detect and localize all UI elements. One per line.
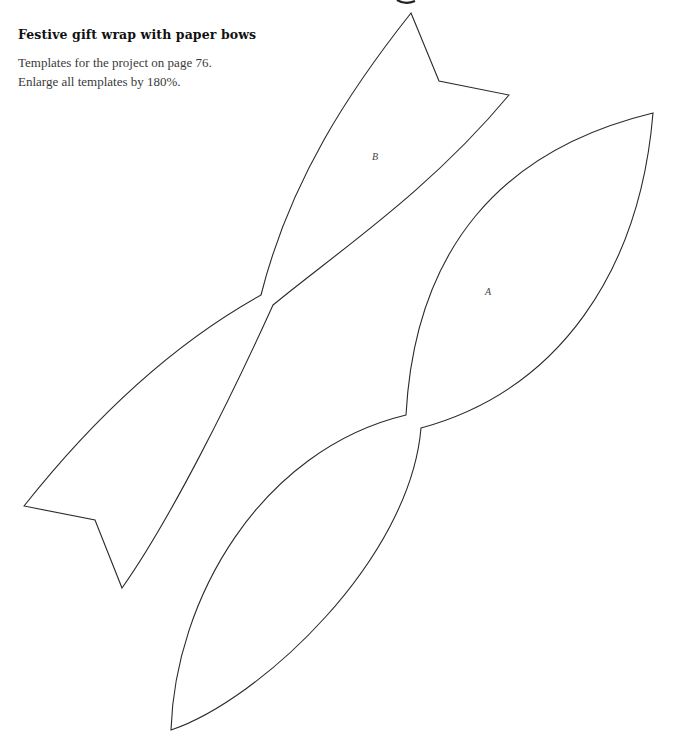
bow-template-a-outline — [171, 113, 653, 730]
cropped-glyph — [397, 0, 415, 3]
bow-template-b-outline — [24, 13, 509, 588]
template-canvas: B A — [0, 0, 681, 756]
template-a-label: A — [484, 286, 492, 297]
template-b-label: B — [372, 151, 378, 162]
